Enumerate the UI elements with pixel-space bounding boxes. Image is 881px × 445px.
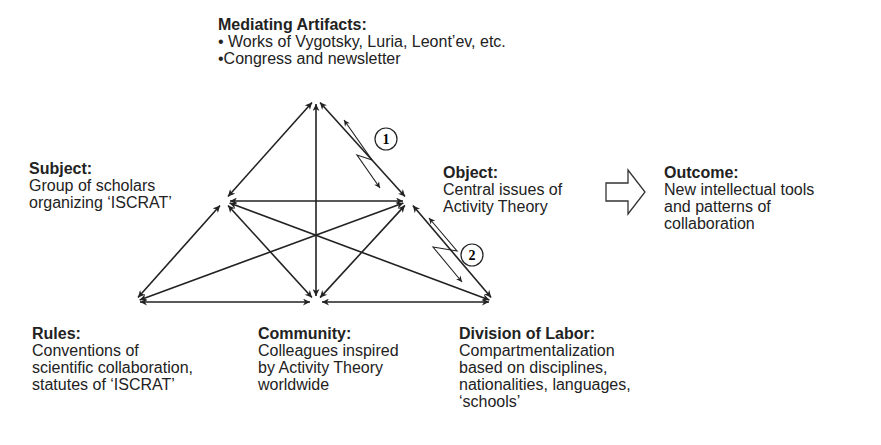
- community-title: Community:: [258, 325, 399, 342]
- rules-label: Rules: Conventions of scientific collabo…: [32, 325, 193, 393]
- subject-title: Subject:: [29, 160, 172, 177]
- rules-line-1: Conventions of: [32, 342, 193, 359]
- outcome-title: Outcome:: [664, 164, 814, 181]
- division-of-labor-line-4: ‘schools’: [459, 393, 631, 410]
- object-line-1: Central issues of: [443, 181, 562, 198]
- subject-label: Subject: Group of scholars organizing ‘I…: [29, 160, 172, 211]
- mediating-artifacts-line-2: •Congress and newsletter: [218, 50, 506, 67]
- contradiction-2: 2: [429, 218, 483, 282]
- subject-line-1: Group of scholars: [29, 177, 172, 194]
- contradiction-1-lightning: [344, 120, 380, 188]
- object-label: Object: Central issues of Activity Theor…: [443, 164, 562, 215]
- community-line-3: worldwide: [258, 376, 399, 393]
- edge-subject-division-of-labor: [230, 203, 490, 300]
- contradiction-1-number: 1: [383, 132, 390, 147]
- mediating-artifacts-label: Mediating Artifacts: • Works of Vygotsky…: [218, 16, 506, 67]
- community-line-2: by Activity Theory: [258, 359, 399, 376]
- community-line-1: Colleagues inspired: [258, 342, 399, 359]
- division-of-labor-label: Division of Labor: Compartmentalization …: [459, 325, 631, 410]
- division-of-labor-line-3: nationalities, languages,: [459, 376, 631, 393]
- edge-mediating-artifacts-subject: [228, 102, 312, 196]
- outcome-line-1: New intellectual tools: [664, 181, 814, 198]
- subject-line-2: organizing ‘ISCRAT’: [29, 194, 172, 211]
- rules-line-2: scientific collaboration,: [32, 359, 193, 376]
- division-of-labor-title: Division of Labor:: [459, 325, 631, 342]
- contradiction-2-lightning: [429, 218, 462, 282]
- edge-object-community: [320, 205, 405, 297]
- division-of-labor-line-1: Compartmentalization: [459, 342, 631, 359]
- outcome-line-2: and patterns of: [664, 198, 814, 215]
- outcome-label: Outcome: New intellectual tools and patt…: [664, 164, 814, 232]
- outcome-arrow-icon: [606, 170, 645, 214]
- mediating-artifacts-line-1: • Works of Vygotsky, Luria, Leont’ev, et…: [218, 33, 506, 50]
- division-of-labor-line-2: based on disciplines,: [459, 359, 631, 376]
- contradiction-2-number: 2: [469, 248, 476, 263]
- edge-subject-rules: [138, 205, 220, 297]
- edge-mediating-artifacts-object: [320, 102, 405, 196]
- mediating-artifacts-title: Mediating Artifacts:: [218, 16, 506, 33]
- community-label: Community: Colleagues inspired by Activi…: [258, 325, 399, 393]
- rules-line-3: statutes of ‘ISCRAT’: [32, 376, 193, 393]
- object-title: Object:: [443, 164, 562, 181]
- object-line-2: Activity Theory: [443, 198, 562, 215]
- rules-title: Rules:: [32, 325, 193, 342]
- outcome-line-3: collaboration: [664, 215, 814, 232]
- edges-group: [138, 102, 491, 302]
